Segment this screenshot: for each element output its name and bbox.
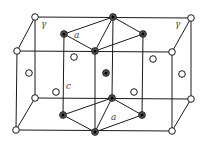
atom-open	[179, 71, 186, 78]
atom-filled	[92, 129, 99, 136]
atom-filled	[61, 31, 68, 38]
atom-open	[188, 15, 195, 22]
filled-atoms	[60, 14, 147, 136]
atom-open	[150, 56, 157, 63]
atom-open	[53, 89, 60, 96]
label-a-bottom: a	[111, 112, 116, 122]
atom-open	[32, 14, 39, 21]
label-gamma-right: γ	[175, 19, 181, 29]
label-a-top: a	[74, 30, 79, 40]
atom-open	[13, 127, 20, 134]
atom-filled	[139, 112, 146, 119]
atom-filled	[109, 95, 116, 102]
atom-open	[188, 96, 195, 103]
atom-open	[14, 48, 21, 55]
label-gamma-left: γ	[41, 19, 47, 29]
atom-open	[26, 70, 33, 77]
atom-filled	[110, 14, 117, 21]
atom-filled	[92, 48, 99, 55]
atom-filled	[60, 112, 67, 119]
label-c-axis: c	[66, 81, 71, 91]
atom-open	[169, 128, 176, 135]
atom-open	[131, 89, 138, 96]
atom-open	[32, 95, 39, 102]
atom-filled	[103, 70, 110, 77]
atom-filled	[140, 31, 147, 38]
atom-open	[71, 54, 78, 61]
atom-open	[169, 49, 176, 56]
crystal-structure-diagram: γ γ a c a	[0, 0, 203, 145]
